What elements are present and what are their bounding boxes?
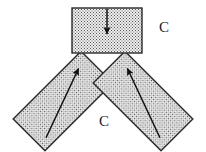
- top-vertical-member: [72, 8, 142, 53]
- figure-canvas: C C: [0, 0, 206, 152]
- diagram-svg: C C: [0, 0, 206, 152]
- label-c-right: C: [159, 19, 169, 35]
- right-diagonal-member: [93, 51, 193, 151]
- label-c-center: C: [99, 113, 109, 129]
- left-diagonal-member: [13, 51, 113, 151]
